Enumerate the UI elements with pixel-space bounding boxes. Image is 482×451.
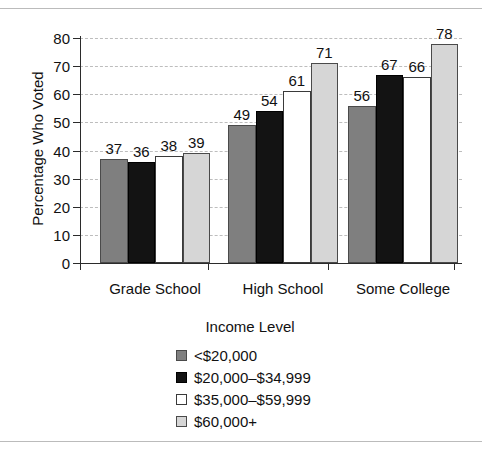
legend-title: Income Level xyxy=(0,318,482,335)
bottom-divider xyxy=(0,441,482,442)
y-axis-tick-label: 50 xyxy=(36,115,70,130)
bar xyxy=(183,153,211,263)
chart-page: Percentage Who Voted 80706050403020100 3… xyxy=(0,0,482,451)
top-divider xyxy=(0,8,482,9)
x-axis-tick xyxy=(208,263,209,270)
bar xyxy=(100,159,128,263)
y-axis-tick-label: 70 xyxy=(36,59,70,74)
y-axis-tick-label: 40 xyxy=(36,144,70,159)
legend-swatch-icon xyxy=(176,372,187,383)
x-axis-category-label: Some College xyxy=(333,280,473,297)
y-axis-tick-label: 60 xyxy=(36,87,70,102)
bar xyxy=(228,125,256,263)
bar-value-label: 56 xyxy=(342,88,382,103)
bar xyxy=(283,91,311,263)
bar-value-label: 78 xyxy=(425,26,465,41)
legend-entry: $20,000–$34,999 xyxy=(176,366,326,388)
bar-value-label: 66 xyxy=(397,59,437,74)
x-axis-tick xyxy=(454,263,455,270)
legend-entry: $35,000–$59,999 xyxy=(176,388,326,410)
bar-value-label: 61 xyxy=(277,73,317,88)
x-axis-category-label: Grade School xyxy=(85,280,225,297)
x-axis-tick xyxy=(80,263,81,270)
bar xyxy=(376,75,404,263)
bar xyxy=(256,111,284,263)
bar-value-label: 71 xyxy=(305,45,345,60)
bar-value-label: 49 xyxy=(222,107,262,122)
bar-chart: Percentage Who Voted 80706050403020100 3… xyxy=(0,12,482,307)
y-axis-tick-label: 10 xyxy=(36,228,70,243)
bar xyxy=(348,106,376,264)
legend-entry-label: $35,000–$59,999 xyxy=(194,391,311,408)
bar-value-label: 39 xyxy=(177,135,217,150)
bar xyxy=(155,156,183,263)
bar xyxy=(431,44,459,263)
legend-entry: <$20,000 xyxy=(176,344,326,366)
legend-entry-label: <$20,000 xyxy=(194,347,257,364)
legend-entry-label: $60,000+ xyxy=(194,413,257,430)
bar xyxy=(128,162,156,263)
y-axis-tick-label: 30 xyxy=(36,172,70,187)
bar xyxy=(311,63,339,263)
legend-swatch-icon xyxy=(176,394,187,405)
y-axis-tick-label: 0 xyxy=(36,256,70,271)
legend-swatch-icon xyxy=(176,416,187,427)
legend-entry-label: $20,000–$34,999 xyxy=(194,369,311,386)
y-axis-tick-label: 80 xyxy=(36,31,70,46)
x-axis-line xyxy=(80,263,462,264)
bar-value-label: 54 xyxy=(250,93,290,108)
legend-entries: <$20,000$20,000–$34,999$35,000–$59,999$6… xyxy=(156,344,326,432)
x-axis-tick xyxy=(328,263,329,270)
legend-swatch-icon xyxy=(176,350,187,361)
y-axis-tick-label: 20 xyxy=(36,200,70,215)
legend-entry: $60,000+ xyxy=(176,410,326,432)
x-axis-category-label: High School xyxy=(213,280,353,297)
bar xyxy=(403,77,431,263)
y-axis-tick-labels: 80706050403020100 xyxy=(28,12,70,307)
legend: Income Level <$20,000$20,000–$34,999$35,… xyxy=(0,318,482,432)
